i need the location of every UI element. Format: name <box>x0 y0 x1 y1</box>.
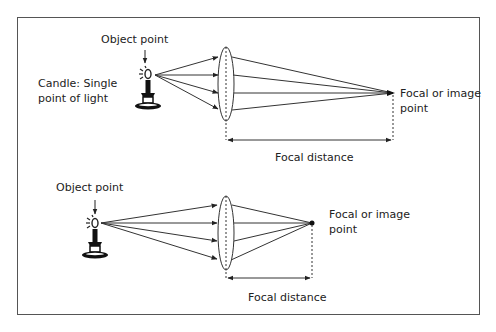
focal-distance-label-top: Focal distance <box>275 151 354 165</box>
candle-icon <box>135 66 161 110</box>
object-point-label-bottom: Object point <box>56 181 123 195</box>
converging-rays <box>231 205 312 260</box>
incoming-rays <box>155 57 218 109</box>
focal-point-label-top-line2: point <box>400 102 428 116</box>
candle-label-line2: point of light <box>38 92 108 106</box>
focal-point-marker <box>310 221 315 226</box>
optics-diagram <box>0 0 496 332</box>
focal-point-marker <box>387 90 395 96</box>
focal-point-label-bottom-line1: Focal or image <box>329 208 410 222</box>
incoming-rays <box>101 205 217 259</box>
object-point-label-top: Object point <box>101 33 168 47</box>
converging-rays <box>232 57 393 110</box>
bottom-diagram <box>82 196 315 278</box>
candle-label-line1: Candle: Single <box>38 77 117 91</box>
top-diagram <box>135 47 395 140</box>
focal-point-label-bottom-line2: point <box>329 223 357 237</box>
candle-icon <box>82 215 108 259</box>
focal-distance-label-bottom: Focal distance <box>248 291 327 305</box>
focal-point-label-top-line1: Focal or image <box>400 87 481 101</box>
